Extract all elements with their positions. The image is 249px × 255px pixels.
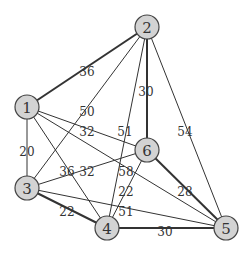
edge-weight-label: 20 <box>19 145 34 159</box>
node-3: 3 <box>15 176 39 200</box>
edge-labels-layer: 365051305420323658322222512830 <box>19 65 193 239</box>
edge-weight-label: 22 <box>118 185 133 199</box>
edge-weight-label: 32 <box>79 125 94 139</box>
node-label: 2 <box>142 19 152 37</box>
edge-weight-label: 30 <box>157 225 172 239</box>
node-2: 2 <box>135 15 159 39</box>
node-label: 6 <box>142 142 152 160</box>
edge-weight-label: 30 <box>138 85 153 99</box>
node-6: 6 <box>135 138 159 162</box>
node-label: 1 <box>22 99 32 117</box>
edge-weight-label: 32 <box>79 165 94 179</box>
edge-weight-label: 51 <box>118 205 133 219</box>
edge-weight-label: 36 <box>59 165 74 179</box>
node-4: 4 <box>95 216 119 240</box>
edge-weight-label: 22 <box>59 205 74 219</box>
node-label: 4 <box>102 220 112 238</box>
node-5: 5 <box>214 216 238 240</box>
node-1: 1 <box>15 95 39 119</box>
node-label: 3 <box>22 180 32 198</box>
node-label: 5 <box>221 220 231 238</box>
edge-weight-label: 51 <box>117 125 132 139</box>
edge-weight-label: 58 <box>118 165 133 179</box>
edge-weight-label: 50 <box>79 105 94 119</box>
edge-weight-label: 28 <box>177 185 192 199</box>
weighted-graph: 365051305420323658322222512830 123456 <box>0 0 249 255</box>
edge-weight-label: 54 <box>177 125 193 139</box>
edge-weight-label: 36 <box>79 65 94 79</box>
